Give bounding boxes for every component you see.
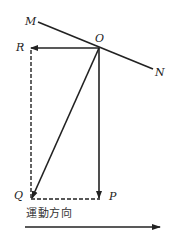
motion-direction-caption: 運動方向 — [26, 208, 72, 219]
line-mn — [38, 22, 153, 69]
label-m: M — [25, 16, 36, 27]
label-o: O — [95, 33, 104, 44]
label-p: P — [109, 191, 116, 202]
arrow-oq — [32, 48, 99, 198]
label-n: N — [155, 67, 165, 78]
vector-diagram: M N O R Q P 運動方向 — [0, 0, 174, 245]
label-r: R — [16, 42, 24, 53]
label-q: Q — [14, 190, 23, 201]
